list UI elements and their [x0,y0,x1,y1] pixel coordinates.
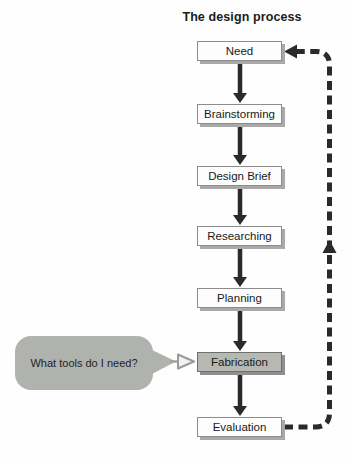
step-box-evaluation: Evaluation [197,417,282,437]
feedback-dashed-line [284,52,330,428]
step-label: Need [226,45,254,57]
down-arrow-need-brainstorming [233,62,247,103]
step-box-brainstorming: Brainstorming [197,104,282,124]
connector-layer [0,0,348,464]
callout-text: What tools do I need? [30,357,137,369]
step-box-need: Need [197,41,282,61]
down-arrow-planning-fabrication [233,309,247,351]
step-label: Brainstorming [204,108,275,120]
design-process-diagram: The design process [0,0,348,464]
down-arrow-researching-planning [233,247,247,287]
step-label: Researching [207,230,272,242]
callout-bubble: What tools do I need? [15,336,153,390]
down-arrow-designbrief-researching [233,187,247,225]
step-label: Fabrication [211,356,268,368]
step-label: Design Brief [208,170,271,182]
feedback-arrowhead-up [323,240,337,253]
feedback-arrowhead-left [284,45,297,59]
down-arrow-fabrication-evaluation [233,373,247,416]
step-box-fabrication: Fabrication [197,352,282,372]
step-box-researching: Researching [197,226,282,246]
step-box-planning: Planning [197,288,282,308]
callout-arrowhead [178,355,194,369]
step-label: Evaluation [213,421,267,433]
step-box-design-brief: Design Brief [197,166,282,186]
step-label: Planning [217,292,262,304]
down-arrow-brainstorming-designbrief [233,125,247,165]
